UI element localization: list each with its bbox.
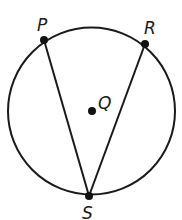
point-p xyxy=(40,36,48,44)
label-p: P xyxy=(37,15,48,35)
chord-rs xyxy=(89,44,145,196)
chord-ps xyxy=(44,40,89,196)
point-q xyxy=(88,107,96,115)
label-q: Q xyxy=(98,93,111,113)
point-r xyxy=(141,40,149,48)
label-s: S xyxy=(82,203,93,220)
point-s xyxy=(85,192,93,200)
label-r: R xyxy=(144,18,156,38)
circle-diagram: P R Q S xyxy=(0,0,182,220)
